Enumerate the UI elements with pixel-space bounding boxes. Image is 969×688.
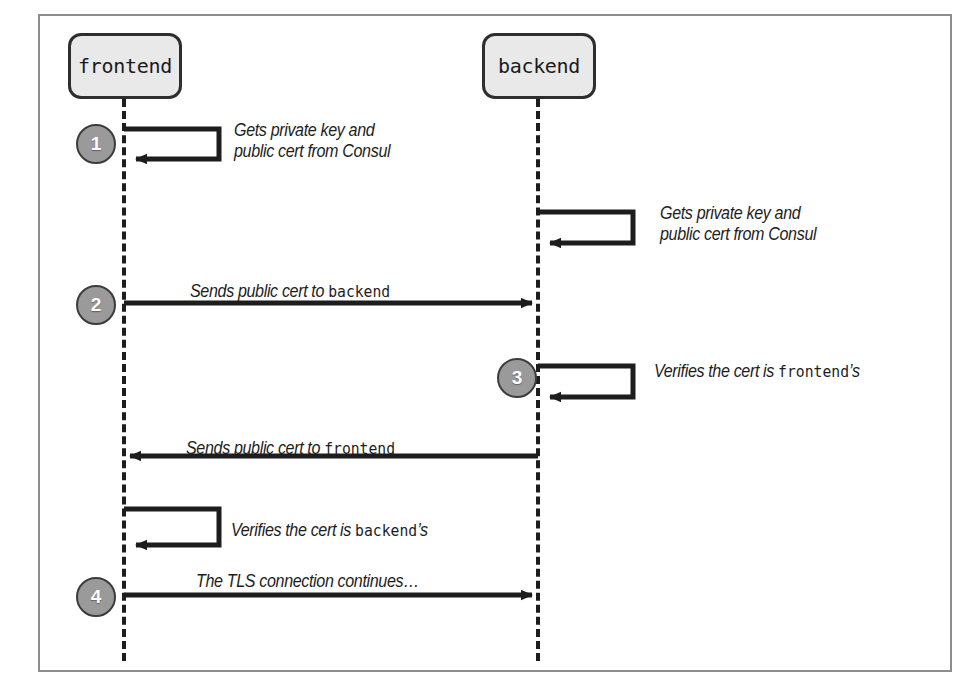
- message-label-code-backend: backend: [355, 521, 417, 540]
- message-label-line-2: public cert from Consul: [234, 141, 390, 162]
- message-label-prefix: Sends public cert to: [190, 281, 328, 301]
- message-label-prefix: Verifies the cert is: [231, 520, 355, 540]
- sequence-diagram-canvas: [0, 0, 969, 688]
- message-label-code-frontend: frontend: [324, 439, 395, 458]
- participant-label-backend: backend: [498, 54, 580, 78]
- self-call-loop-backend-keys: [538, 212, 633, 243]
- message-label-sends-cert-to-frontend: Sends public cert to frontend: [186, 438, 395, 459]
- message-label-tls-continues: The TLS connection continues…: [196, 571, 419, 592]
- step-badge-4: 4: [76, 577, 116, 617]
- message-label-prefix: Verifies the cert is: [654, 361, 778, 381]
- figure-caption: [6, 676, 706, 688]
- message-label-backend-gets-keys: Gets private key and public cert from Co…: [660, 203, 816, 244]
- message-label-prefix: The TLS connection continues…: [196, 571, 419, 591]
- message-label-prefix: Sends public cert to: [186, 438, 324, 458]
- message-label-code-backend: backend: [328, 282, 390, 301]
- participant-label-frontend: frontend: [78, 54, 172, 78]
- message-label-suffix: ’s: [849, 361, 860, 381]
- message-label-verify-backend-cert: Verifies the cert is backend’s: [231, 520, 428, 541]
- self-call-loop-frontend-1: [124, 129, 219, 159]
- lifeline-frontend: [122, 99, 126, 661]
- step-badge-1: 1: [76, 124, 116, 164]
- participant-box-backend[interactable]: backend: [482, 33, 596, 99]
- message-label-line-2: public cert from Consul: [660, 224, 816, 245]
- self-call-loop-frontend-verify: [124, 509, 219, 545]
- message-label-line-1: Gets private key and: [234, 120, 390, 141]
- step-badge-2: 2: [76, 285, 116, 325]
- message-label-sends-cert-to-backend: Sends public cert to backend: [190, 281, 390, 302]
- step-badge-3: 3: [497, 358, 537, 398]
- message-label-suffix: ’s: [417, 520, 428, 540]
- self-call-loop-backend-verify: [538, 366, 633, 397]
- participant-box-frontend[interactable]: frontend: [68, 33, 182, 99]
- message-label-frontend-gets-keys: Gets private key and public cert from Co…: [234, 120, 390, 161]
- message-label-code-frontend: frontend: [778, 362, 849, 381]
- message-label-line-1: Gets private key and: [660, 203, 816, 224]
- message-label-verify-frontend-cert: Verifies the cert is frontend’s: [654, 361, 860, 382]
